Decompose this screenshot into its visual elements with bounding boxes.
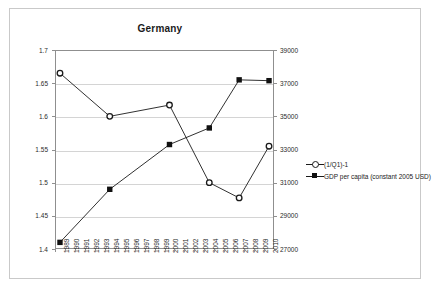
data-point-open-circle <box>266 143 272 149</box>
data-point-filled-square <box>167 142 172 147</box>
legend-item-series-2: GDP per capita (constant 2005 USD) <box>306 171 431 181</box>
open-circle-marker-icon <box>306 160 324 169</box>
series-line-1 <box>60 73 269 198</box>
data-point-open-circle <box>206 180 212 186</box>
legend-item-series-1: (1/Q1)-1 <box>306 159 431 169</box>
data-point-filled-square <box>266 78 271 83</box>
data-point-open-circle <box>236 195 242 201</box>
data-point-filled-square <box>236 77 241 82</box>
legend-label-series-2: GDP per capita (constant 2005 USD) <box>324 173 431 180</box>
data-point-filled-square <box>107 187 112 192</box>
data-point-open-circle <box>107 114 113 120</box>
chart-frame: Germany 1.41.451.51.551.61.651.7 2700029… <box>9 8 421 279</box>
series-layer <box>10 9 422 280</box>
data-point-open-circle <box>167 102 173 108</box>
filled-square-marker-icon <box>306 172 324 181</box>
series-line-2 <box>60 80 269 243</box>
data-point-filled-square <box>207 125 212 130</box>
legend-label-series-1: (1/Q1)-1 <box>324 161 348 168</box>
data-point-filled-square <box>57 240 62 245</box>
data-point-open-circle <box>57 70 63 76</box>
chart-legend: (1/Q1)-1 GDP per capita (constant 2005 U… <box>306 159 431 183</box>
